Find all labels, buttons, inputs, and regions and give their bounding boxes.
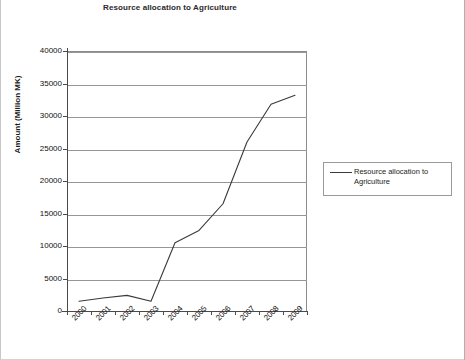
- y-axis-tick-mark: [63, 51, 67, 52]
- legend-entry-resource-allocation[interactable]: Resource allocation to Agriculture: [324, 163, 453, 197]
- x-axis-tick-mark: [91, 311, 92, 315]
- y-axis-tick-mark: [63, 84, 67, 85]
- legend-label-line-1: Resource allocation to: [354, 167, 428, 176]
- x-axis-tick-mark: [115, 311, 116, 315]
- x-axis-tick-mark: [67, 311, 68, 315]
- y-axis-tick-mark: [63, 149, 67, 150]
- x-axis-tick-mark: [307, 311, 308, 315]
- legend-label-line-2: Agriculture: [354, 177, 390, 186]
- chart-figure: Resource allocation to Agriculture Amoun…: [0, 0, 465, 360]
- legend-entry-label: Resource allocation to Agriculture: [354, 167, 450, 187]
- x-axis-tick-mark: [259, 311, 260, 315]
- x-axis-tick-mark: [283, 311, 284, 315]
- x-axis-tick-mark: [235, 311, 236, 315]
- x-axis-tick-mark: [163, 311, 164, 315]
- x-axis-tick-mark: [211, 311, 212, 315]
- x-axis-tick-mark: [139, 311, 140, 315]
- x-axis-tick-mark: [187, 311, 188, 315]
- legend: Resource allocation to Agriculture: [323, 162, 452, 196]
- line-marker-icon: [330, 172, 352, 173]
- series-polyline-resource-allocation: [79, 95, 295, 301]
- y-axis-tick-mark: [63, 116, 67, 117]
- y-axis-tick-mark: [63, 214, 67, 215]
- y-axis-tick-mark: [63, 279, 67, 280]
- y-axis-tick-mark: [63, 181, 67, 182]
- y-axis-tick-mark: [63, 246, 67, 247]
